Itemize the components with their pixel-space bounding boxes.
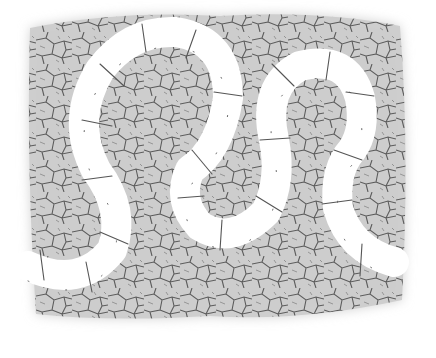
texture-svg <box>0 0 436 358</box>
cracked-earth-image <box>0 0 436 358</box>
